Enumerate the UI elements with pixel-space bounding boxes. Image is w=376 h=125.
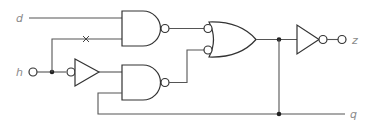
- input-h-terminal: [29, 68, 37, 76]
- output-q-label: q: [350, 108, 357, 121]
- wire-nand2-to-or: [169, 50, 204, 83]
- output-inverter-gate: [297, 25, 319, 54]
- or-input-bubble-1: [204, 25, 212, 33]
- nand-gate-1: [122, 11, 161, 46]
- or-input-bubble-2: [204, 46, 212, 54]
- logic-circuit-diagram: d h z q: [0, 0, 376, 125]
- output-z-terminal: [338, 36, 346, 44]
- junction-q: [277, 112, 282, 117]
- output-z-label: z: [351, 34, 358, 47]
- buffer-gate: [75, 59, 99, 86]
- nand-gate-2: [122, 65, 161, 100]
- output-inverter-bubble: [319, 36, 327, 44]
- or-gate: [209, 22, 256, 57]
- input-d-label: d: [16, 12, 24, 25]
- input-h-label: h: [16, 66, 23, 79]
- nand-2-output-bubble: [161, 79, 169, 87]
- buffer-input-bubble: [67, 68, 75, 76]
- nand-1-output-bubble: [161, 25, 169, 33]
